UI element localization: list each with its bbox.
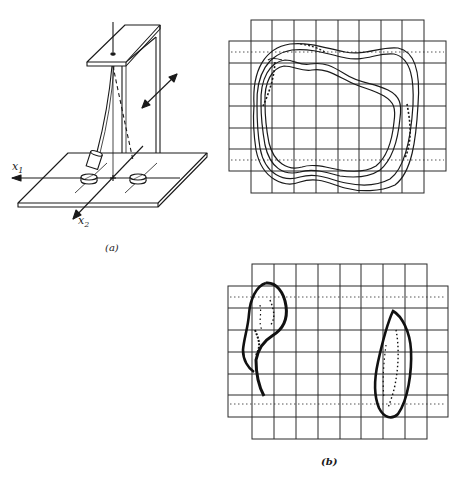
suspension-hole <box>111 53 115 55</box>
magnet-right <box>130 174 146 184</box>
dashed-swing-path <box>113 66 133 160</box>
trace-blob-left <box>243 283 286 396</box>
trace-blob-right <box>375 311 411 417</box>
pendulum-string <box>97 66 112 152</box>
pendulum-apparatus <box>12 22 207 219</box>
stand-arm <box>87 25 160 66</box>
trajectory-trace-loops <box>253 44 418 191</box>
magnet-left <box>81 174 97 184</box>
oscilloscope-grid-bottom <box>228 264 448 439</box>
panel-b-label: (b) <box>321 456 337 467</box>
panel-a-label: (a) <box>105 242 119 253</box>
figure-canvas <box>0 0 457 480</box>
x2-axis-label: x2 <box>78 214 89 229</box>
x1-axis-label: x1 <box>12 160 23 175</box>
trajectory-trace-blobs <box>243 283 411 417</box>
